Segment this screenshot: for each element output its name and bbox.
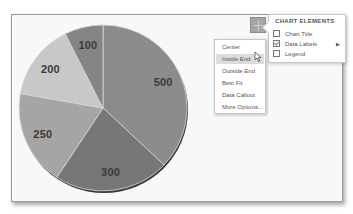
submenu-item-center[interactable]: Center: [216, 42, 264, 52]
data-label[interactable]: 250: [33, 128, 52, 140]
data-labels-checkbox[interactable]: [273, 40, 280, 47]
submenu-arrow-icon[interactable]: ▶: [336, 41, 340, 47]
chart-title-label: Chart Title: [285, 31, 312, 37]
legend-option[interactable]: Legend: [273, 49, 305, 58]
submenu-item-data-callout[interactable]: Data Callout: [216, 90, 264, 100]
mouse-cursor-icon: [254, 52, 262, 62]
data-labels-submenu: Center Inside End Outside End Best Fit D…: [214, 39, 266, 114]
chart-title-option[interactable]: Chart Title: [273, 29, 312, 38]
data-label[interactable]: 200: [41, 63, 60, 75]
data-label[interactable]: 500: [154, 76, 173, 88]
panel-title: CHART ELEMENTS: [275, 18, 335, 24]
data-label[interactable]: 100: [78, 39, 97, 51]
data-labels-label: Data Labels: [285, 41, 317, 47]
data-labels-option[interactable]: Data Labels ▶: [273, 39, 317, 48]
chart-elements-panel: CHART ELEMENTS Chart Title Data Labels ▶…: [268, 14, 346, 63]
chart-title-checkbox[interactable]: [273, 30, 280, 37]
legend-checkbox[interactable]: [273, 50, 280, 57]
submenu-item-outside-end[interactable]: Outside End: [216, 66, 264, 76]
submenu-item-more-options[interactable]: More Options...: [216, 102, 264, 112]
submenu-item-best-fit[interactable]: Best Fit: [216, 78, 264, 88]
data-label[interactable]: 300: [101, 166, 120, 178]
legend-label: Legend: [285, 51, 305, 57]
